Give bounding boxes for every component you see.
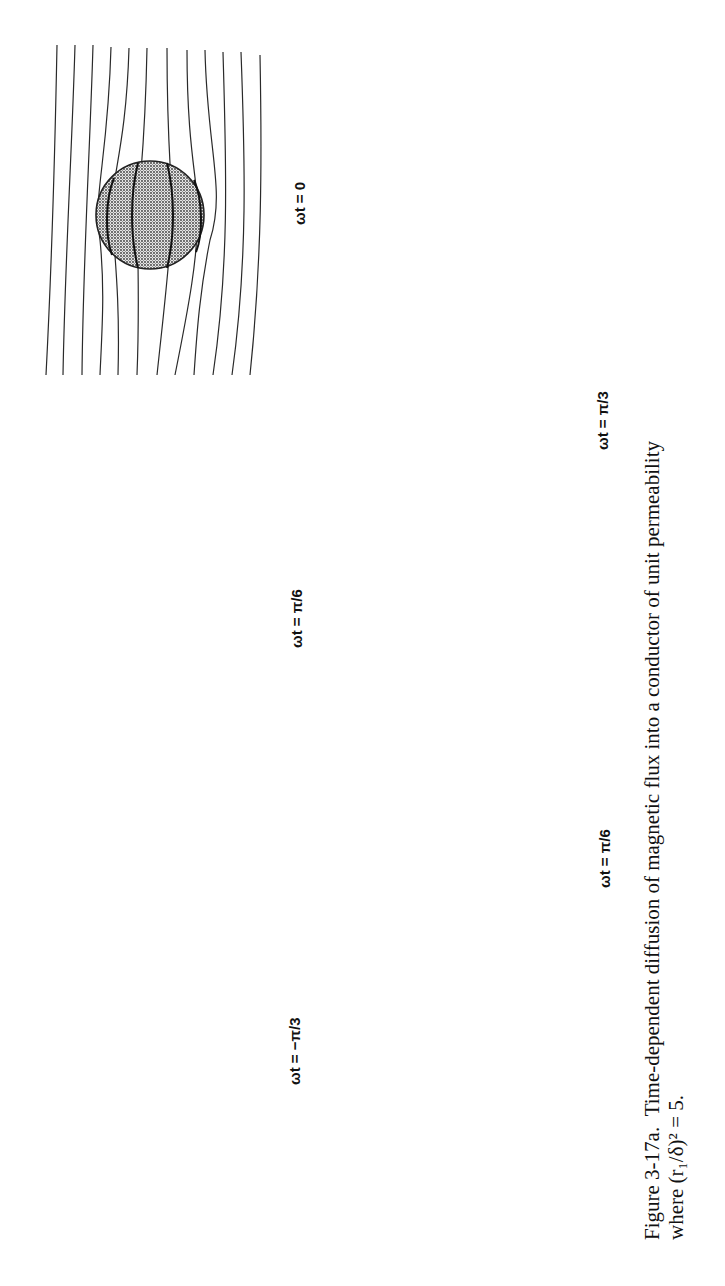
flux-diffusion-figure (0, 0, 725, 1286)
panel-label-wt-0: ωt = 0 (291, 182, 308, 225)
panel-wt-0 (46, 45, 261, 375)
caption-line-1: Figure 3-17a. Time-dependent diffusion o… (640, 340, 664, 1240)
panel-label-wt-pi6-bottom: ωt = π/6 (596, 829, 613, 888)
panel-label-wt-minus-pi3: ωt = −π/3 (286, 1017, 303, 1085)
panel-label-wt-pi6-top: ωt = π/6 (288, 589, 305, 648)
panel-label-wt-pi3: ωt = π/3 (594, 391, 611, 450)
caption-line-2: where (r₁/δ)² = 5. (664, 340, 688, 1240)
figure-number: Figure 3-17a. (640, 1127, 664, 1240)
figure-caption: Figure 3-17a. Time-dependent diffusion o… (640, 340, 688, 1240)
document-page: ωt = 0 ωt = π/6 ωt = −π/3 ωt = π/3 ωt = … (0, 0, 725, 1286)
caption-text: Time-dependent diffusion of magnetic flu… (640, 441, 664, 1116)
